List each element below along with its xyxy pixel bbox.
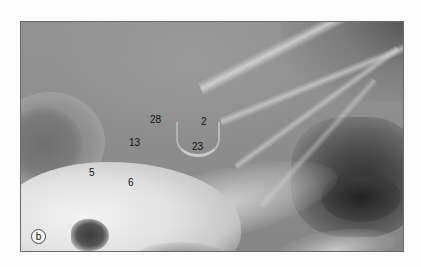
marker-23: 23 bbox=[192, 142, 203, 152]
lower-dark-region bbox=[131, 242, 231, 252]
skull-base-band bbox=[76, 142, 345, 252]
marker-6: 6 bbox=[128, 178, 134, 188]
left-dark-cavity bbox=[20, 107, 83, 182]
marker-5: 5 bbox=[89, 168, 95, 178]
radiograph-figure: 28 2 13 23 5 6 b bbox=[20, 21, 404, 252]
bone-ridge-2 bbox=[219, 31, 404, 126]
marker-28: 28 bbox=[150, 115, 161, 125]
marker-13: 13 bbox=[129, 138, 140, 148]
petrous-bone-mass bbox=[20, 162, 241, 252]
bone-ridge-1 bbox=[198, 21, 404, 95]
bone-ridge-3 bbox=[233, 45, 400, 170]
lower-right-bone bbox=[274, 222, 398, 252]
right-dark-region bbox=[291, 117, 404, 237]
background-soft-tissue bbox=[21, 22, 403, 251]
marker-2: 2 bbox=[201, 117, 207, 127]
bone-ridge-4 bbox=[258, 77, 378, 209]
cranial-vault-shadow bbox=[281, 21, 404, 102]
dark-foramen bbox=[71, 219, 109, 251]
panel-label-b: b bbox=[31, 229, 46, 244]
right-darkest-region bbox=[321, 172, 401, 222]
